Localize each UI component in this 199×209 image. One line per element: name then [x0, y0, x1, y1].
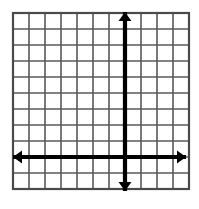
grid-canvas	[0, 0, 199, 209]
figure-background	[0, 0, 199, 209]
coordinate-grid-figure: Blank Cartesian coordinate grid An empty…	[0, 0, 199, 209]
